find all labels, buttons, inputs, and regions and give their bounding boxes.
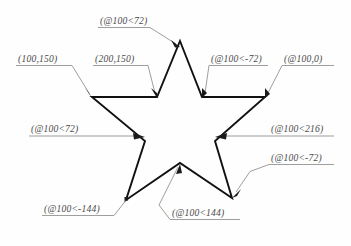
label-at-100-lt-72: (@100<72) bbox=[100, 15, 147, 27]
leader-group-top-apex bbox=[98, 28, 180, 48]
label-at-100-lt-216: (@100<216) bbox=[271, 123, 323, 135]
leader-line-lower-right bbox=[236, 165, 269, 193]
leader-line-upper-right bbox=[205, 66, 209, 94]
diagram-canvas: (@100<72) (100,150) (200,150) (@100<-72)… bbox=[0, 0, 351, 246]
label-at-100-lt-144: (@100<144) bbox=[172, 207, 224, 219]
leader-line-upper-mid bbox=[148, 66, 155, 94]
leader-group-upper-right bbox=[202, 66, 268, 99]
leader-line-lower-left bbox=[114, 199, 127, 216]
star-polyline bbox=[92, 41, 265, 200]
arrowhead-lower-left bbox=[125, 197, 129, 201]
leader-group-lower-right bbox=[232, 165, 334, 199]
label-at-100-lt-minus-144: (@100<-144) bbox=[44, 203, 100, 215]
leader-group-upper-mid bbox=[93, 66, 157, 99]
label-at-200-150: (200,150) bbox=[95, 53, 134, 65]
label-at-100-lt-minus-72-lower: (@100<-72) bbox=[271, 152, 322, 164]
label-at-100-0: (@100,0) bbox=[284, 53, 322, 65]
leader-group-upper-left bbox=[16, 66, 92, 99]
leader-group-far-right bbox=[265, 66, 334, 99]
label-at-100-lt-72-left: (@100<72) bbox=[31, 123, 78, 135]
arrowhead-lower-right bbox=[232, 189, 241, 198]
leader-line-far-right bbox=[268, 66, 282, 94]
leader-line-upper-left bbox=[72, 66, 89, 94]
label-at-100-150: (100,150) bbox=[18, 53, 57, 65]
star-diagram-svg: (@100<72) (100,150) (200,150) (@100<-72)… bbox=[0, 0, 351, 246]
arrowhead-far-right bbox=[265, 88, 270, 98]
label-at-100-lt-minus-72: (@100<-72) bbox=[211, 53, 262, 65]
